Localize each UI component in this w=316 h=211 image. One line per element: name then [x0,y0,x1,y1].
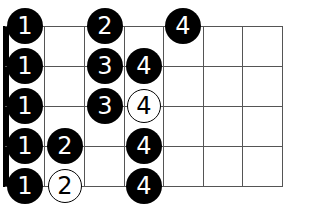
finger-dot: 3 [87,48,123,84]
finger-dot: 3 [87,88,123,124]
fret-line-4 [163,26,164,187]
fret-line-3 [124,26,125,187]
fret-line-1 [44,26,45,187]
finger-dot: 1 [7,128,43,164]
finger-dot-open: 4 [127,89,161,123]
finger-dot: 1 [7,8,43,44]
finger-dot: 4 [165,8,201,44]
fret-line-6 [242,26,243,187]
finger-dot: 4 [126,168,162,204]
finger-dot: 1 [7,88,43,124]
finger-dot-open: 2 [48,169,82,203]
fret-line-2 [84,26,85,187]
finger-dot: 1 [7,48,43,84]
finger-dot: 4 [126,128,162,164]
fretboard-diagram: 1 2 4 1 3 4 1 3 4 1 2 4 1 2 4 [0,0,316,211]
fret-line-5 [203,26,204,187]
fret-line-7 [282,26,283,187]
finger-dot: 4 [126,48,162,84]
finger-dot: 2 [87,8,123,44]
finger-dot: 1 [7,168,43,204]
finger-dot: 2 [47,128,83,164]
